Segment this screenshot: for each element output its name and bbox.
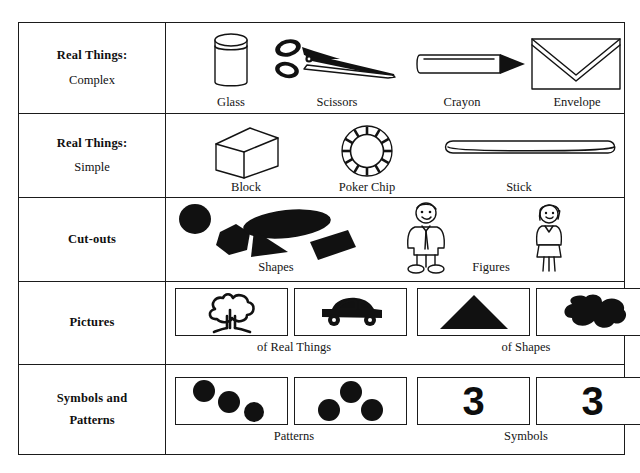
row-label-pictures: Pictures <box>19 282 166 364</box>
numeral-three-icon-2: 3 <box>536 377 640 425</box>
cube-block-icon <box>210 124 282 184</box>
representation-table: Real Things: Complex Glass <box>18 22 625 455</box>
row-content-symbols-and-patterns: Patterns 3 3 Symbols <box>166 365 624 454</box>
caption-poker-chip: Poker Chip <box>319 180 415 195</box>
cutout-figures-icon <box>393 201 459 273</box>
row-label-symbols-and-patterns: Symbols and Patterns <box>19 365 166 454</box>
caption-of-real-things: of Real Things <box>224 340 364 355</box>
picture-tree-icon <box>175 288 288 336</box>
picture-car-icon <box>294 288 407 336</box>
caption-figures: Figures <box>454 260 528 275</box>
caption-stick: Stick <box>478 180 560 195</box>
table-row: Pictures <box>19 282 624 365</box>
row-content-real-things-simple: Block <box>166 114 624 197</box>
caption-scissors: Scissors <box>292 95 382 110</box>
row-label-line2: Complex <box>69 74 115 87</box>
row-label-line1: Cut-outs <box>68 233 116 246</box>
table-row: Cut-outs Shapes <box>19 198 624 282</box>
cutout-shapes-icon <box>170 202 360 264</box>
crayon-icon <box>414 51 528 79</box>
row-label-cutouts: Cut-outs <box>19 198 166 281</box>
poker-chip-icon <box>336 121 398 181</box>
numeral-three-left: 3 <box>462 381 484 421</box>
row-label-real-things-complex: Real Things: Complex <box>19 23 166 113</box>
row-label-line1: Real Things: <box>57 49 128 62</box>
caption-envelope: Envelope <box>532 95 622 110</box>
caption-crayon: Crayon <box>418 95 506 110</box>
pattern-dots-triangle-icon <box>294 377 407 425</box>
caption-of-shapes: of Shapes <box>466 340 586 355</box>
cylinder-glass-icon <box>204 30 258 92</box>
picture-triangle-icon <box>417 288 530 336</box>
row-content-cutouts: Shapes <box>166 198 624 281</box>
caption-shapes: Shapes <box>236 260 316 275</box>
caption-symbols: Symbols <box>466 429 586 444</box>
row-label-line1: Real Things: <box>57 137 128 150</box>
numeral-three-right: 3 <box>581 381 603 421</box>
caption-glass: Glass <box>194 95 268 110</box>
picture-blob-icon <box>536 288 640 336</box>
row-label-line1: Symbols and <box>57 392 128 405</box>
cutout-figure-woman-icon <box>520 201 578 273</box>
row-label-line1: Pictures <box>69 316 114 329</box>
table-row: Real Things: Simple Block <box>19 114 624 198</box>
row-label-line2: Simple <box>74 161 109 174</box>
row-content-pictures: of Real Things <box>166 282 624 364</box>
pattern-dots-icon <box>175 377 288 425</box>
numeral-three-icon: 3 <box>417 377 530 425</box>
caption-patterns: Patterns <box>224 429 364 444</box>
table-row: Symbols and Patterns <box>19 365 624 454</box>
caption-block: Block <box>208 180 284 195</box>
envelope-icon <box>528 35 624 93</box>
stick-icon <box>440 137 622 163</box>
figure-sheet: Real Things: Complex Glass <box>0 0 640 473</box>
row-content-real-things-complex: Glass <box>166 23 624 113</box>
row-label-line2: Patterns <box>69 414 114 427</box>
row-label-real-things-simple: Real Things: Simple <box>19 114 166 197</box>
table-row: Real Things: Complex Glass <box>19 23 624 114</box>
scissors-icon <box>274 37 399 85</box>
